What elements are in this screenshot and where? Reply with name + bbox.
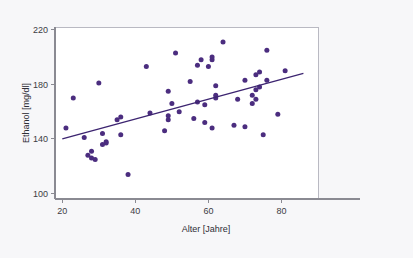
data-point [261,132,266,137]
data-point [118,132,123,137]
data-point [191,116,196,121]
data-point [63,126,68,131]
y-tick-label: 220 [33,25,48,35]
data-point [221,40,226,45]
x-tick-label: 80 [276,206,286,216]
x-tick-label: 40 [130,206,140,216]
data-point [210,126,215,131]
data-point [162,128,167,133]
y-axis-title: Ethanol [mg/dl] [21,83,31,143]
data-point [264,48,269,53]
data-point [166,117,171,122]
data-point [71,95,76,100]
data-point [195,63,200,68]
data-point [253,97,258,102]
y-axis-ticks: 100140180220 [33,25,55,199]
data-point [257,70,262,75]
data-point [199,57,204,62]
data-point [250,101,255,106]
data-point [202,102,207,107]
data-point [242,124,247,129]
data-point [177,109,182,114]
data-point [235,97,240,102]
y-tick-label: 180 [33,80,48,90]
x-axis-title: Alter [Jahre] [182,224,231,234]
data-point [173,50,178,55]
data-point [250,93,255,98]
y-tick-label: 100 [33,189,48,199]
y-tick-label: 140 [33,134,48,144]
figure-container: 20406080 100140180220 Alter [Jahre] Etha… [0,0,413,258]
data-point [188,79,193,84]
data-point [264,78,269,83]
data-point [118,115,123,120]
data-point [93,157,98,162]
data-point [104,141,109,146]
data-point [283,68,288,73]
data-point [82,135,87,140]
data-point [169,101,174,106]
x-tick-label: 60 [203,206,213,216]
data-point [210,55,215,60]
data-point [206,64,211,69]
data-point [275,112,280,117]
data-point [144,64,149,69]
scatter-chart: 20406080 100140180220 Alter [Jahre] Etha… [0,0,413,258]
x-axis-ticks: 20406080 [57,199,286,216]
data-point [242,78,247,83]
x-tick-label: 20 [57,206,67,216]
data-point [126,172,131,177]
data-point [213,83,218,88]
data-point [202,120,207,125]
data-point [96,80,101,85]
data-point [89,149,94,154]
data-point [166,89,171,94]
data-point [100,131,105,136]
data-point [231,123,236,128]
